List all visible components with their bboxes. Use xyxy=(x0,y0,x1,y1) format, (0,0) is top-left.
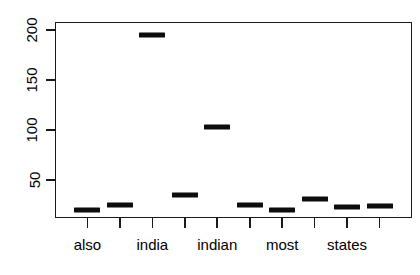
y-axis-tick xyxy=(46,129,55,131)
x-axis-tick-label: also xyxy=(74,236,102,253)
chart-screenshot: 20015010050 alsoindiaindianmoststates xyxy=(0,0,420,275)
x-axis-tick-label: states xyxy=(327,236,367,253)
x-axis-tick xyxy=(314,218,316,228)
y-axis-tick xyxy=(46,179,55,181)
x-axis-tick xyxy=(346,218,348,228)
x-axis-tick xyxy=(87,218,89,228)
x-axis-tick xyxy=(216,218,218,228)
x-axis-tick xyxy=(249,218,251,228)
y-axis-tick-label: 50 xyxy=(0,169,44,191)
x-axis-tick xyxy=(119,218,121,228)
x-axis-tick-label: indian xyxy=(197,236,237,253)
x-axis-tick xyxy=(184,218,186,228)
x-axis: alsoindiaindianmoststates xyxy=(0,218,420,275)
x-axis-tick xyxy=(379,218,381,228)
x-axis-tick xyxy=(281,218,283,228)
plot-area-frame xyxy=(55,22,412,218)
y-axis-tick-label: 100 xyxy=(0,119,44,141)
x-axis-tick-label: india xyxy=(137,236,169,253)
x-axis-tick xyxy=(152,218,154,228)
x-axis-tick-label: most xyxy=(266,236,299,253)
y-axis-tick-label: 150 xyxy=(0,69,44,91)
y-axis-tick-label: 200 xyxy=(0,19,44,41)
y-axis-tick xyxy=(46,29,55,31)
y-axis-tick xyxy=(46,79,55,81)
